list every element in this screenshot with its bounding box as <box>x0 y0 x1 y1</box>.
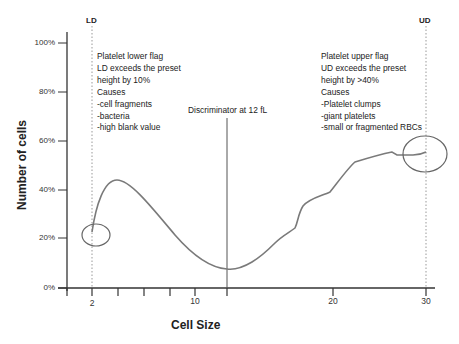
upper-flag-line: -giant platelets <box>321 111 422 123</box>
x-axis-title: Cell Size <box>171 318 220 332</box>
upper-flag-line: Platelet upper flag <box>321 51 422 63</box>
x-tick-label: 30 <box>416 296 436 306</box>
lower-flag-line: -high blank value <box>97 122 181 134</box>
x-tick-label: 10 <box>185 296 205 306</box>
upper-flag-line: -Platelet clumps <box>321 99 422 111</box>
y-tick-label: 80% <box>15 87 55 96</box>
ld-highlight-circle <box>82 224 110 246</box>
upper-flag-line: -small or fragmented RBCs <box>321 122 422 134</box>
lower-flag-line: LD exceeds the preset <box>97 63 181 75</box>
lower-flag-line: Platelet lower flag <box>97 51 181 63</box>
upper-flag-line: height by >40% <box>321 75 422 87</box>
ud-label: UD <box>419 16 431 25</box>
y-tick-label: 0% <box>15 283 55 292</box>
ud-highlight-circle <box>403 136 447 172</box>
lower-flag-annotation: Platelet lower flag LD exceeds the prese… <box>97 51 181 134</box>
y-tick-label: 100% <box>15 38 55 47</box>
lower-flag-line: height by 10% <box>97 75 181 87</box>
lower-flag-line: -bacteria <box>97 111 181 123</box>
upper-flag-line: UD exceeds the preset <box>321 63 422 75</box>
lower-flag-line: -cell fragments <box>97 99 181 111</box>
lower-flag-line: Causes <box>97 87 181 99</box>
x-tick-label: 2 <box>82 298 102 308</box>
histogram-curve <box>92 152 426 269</box>
y-axis-title: Number of cells <box>15 115 29 215</box>
upper-flag-annotation: Platelet upper flag UD exceeds the prese… <box>321 51 422 134</box>
x-ticks <box>67 288 426 296</box>
x-tick-label: 20 <box>323 296 343 306</box>
discriminator-label: Discriminator at 12 fL <box>188 105 267 115</box>
y-ticks <box>58 43 67 288</box>
y-tick-label: 20% <box>15 233 55 242</box>
ld-label: LD <box>86 16 97 25</box>
upper-flag-line: Causes <box>321 87 422 99</box>
